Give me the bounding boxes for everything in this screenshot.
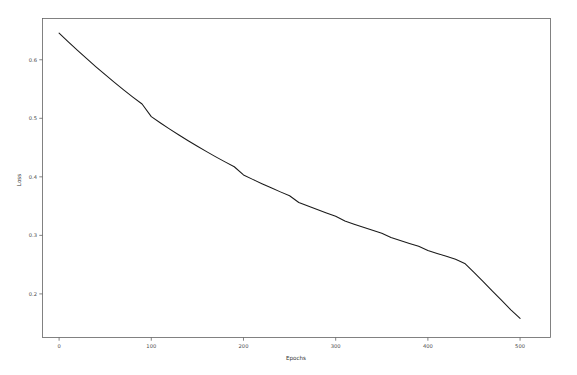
x-axis-ticks: 0100200300400500 [57, 338, 525, 349]
x-axis-title: Epochs [286, 355, 306, 362]
x-tick-label: 100 [146, 343, 156, 349]
x-tick-label: 500 [515, 343, 525, 349]
x-tick-label: 300 [331, 343, 341, 349]
x-tick-label: 200 [239, 343, 249, 349]
y-axis-ticks: 0.20.30.40.50.6 [29, 57, 43, 297]
y-tick-label: 0.2 [29, 291, 37, 297]
x-tick-label: 400 [423, 343, 433, 349]
plot-frame [43, 19, 551, 338]
y-tick-label: 0.3 [29, 232, 37, 238]
loss-curve [59, 33, 520, 318]
figure-canvas: 0.20.30.40.50.6 0100200300400500 Epochs … [0, 0, 577, 375]
x-tick-label: 0 [57, 343, 60, 349]
line-chart: 0.20.30.40.50.6 0100200300400500 Epochs … [0, 0, 577, 375]
y-tick-label: 0.5 [29, 115, 37, 121]
y-axis-title: Loss [16, 174, 22, 186]
y-tick-label: 0.4 [29, 174, 38, 180]
y-tick-label: 0.6 [29, 57, 37, 63]
